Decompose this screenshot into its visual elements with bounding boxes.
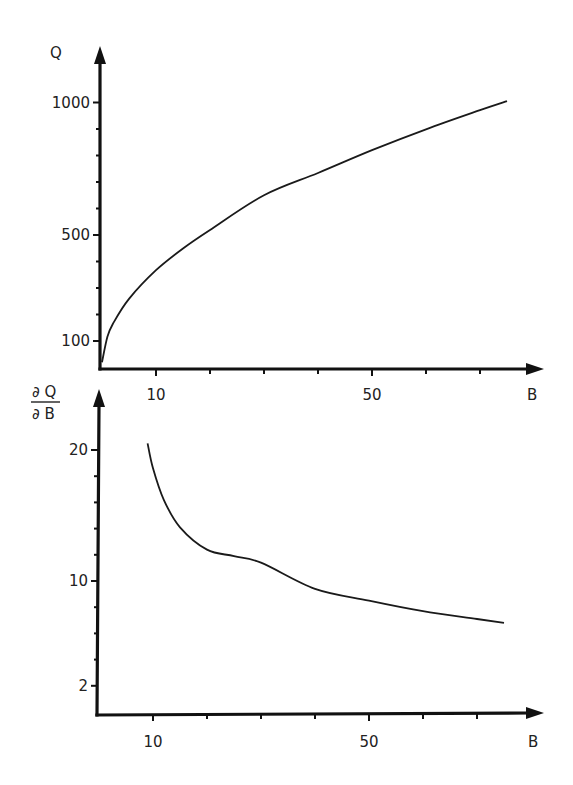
bottom-y-tick-label: 20 — [69, 441, 88, 459]
top-y-axis-label: Q — [50, 44, 62, 62]
bottom-x-arrow-icon — [526, 707, 544, 719]
bottom-x-tick-label: 10 — [143, 733, 162, 751]
top-y-tick-label: 1000 — [52, 94, 90, 112]
top-x-arrow-icon — [526, 363, 544, 375]
bottom-y-axis-label-numerator: ∂ Q — [32, 383, 56, 401]
bottom-axis-ticks — [91, 450, 477, 721]
q-curve — [102, 101, 507, 362]
top-x-tick-label: 10 — [146, 386, 165, 404]
bottom-x-axis — [97, 713, 528, 715]
bottom-x-axis-label: B — [528, 733, 538, 751]
top-y-arrow-icon — [94, 46, 106, 64]
bottom-tick-labels: 105021020 — [69, 441, 379, 751]
top-y-tick-label: 500 — [61, 226, 90, 244]
derivative-curve — [148, 443, 504, 623]
dq-db-vs-b-chart: ∂ Q ∂ B B 105021020 — [31, 383, 544, 751]
bottom-y-tick-label: 10 — [69, 572, 88, 590]
top-x-tick-label: 50 — [362, 386, 381, 404]
bottom-y-axis — [97, 405, 99, 715]
bottom-y-tick-label: 2 — [78, 677, 88, 695]
top-axis-ticks — [93, 103, 480, 377]
top-x-axis-label: B — [527, 386, 537, 404]
bottom-x-tick-label: 50 — [359, 733, 378, 751]
top-y-tick-label: 100 — [61, 332, 90, 350]
bottom-y-arrow-icon — [93, 389, 105, 407]
figure: Q B 10501005001000 ∂ Q ∂ B B 105021020 — [0, 0, 573, 785]
bottom-y-axis-label-denominator: ∂ B — [32, 405, 55, 423]
q-vs-b-chart: Q B 10501005001000 — [50, 44, 544, 404]
